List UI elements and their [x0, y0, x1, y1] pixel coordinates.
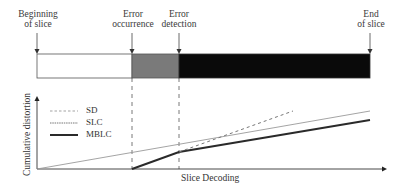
bar-segment-error-propagation: [132, 54, 179, 78]
series-sd: [179, 111, 293, 152]
bar-segment-after-detection: [179, 54, 370, 78]
arrow-down-icon: [35, 49, 40, 54]
series-mblc: [132, 120, 370, 169]
x-axis-label: Slice Decoding: [181, 173, 239, 183]
y-axis-label: Cumulative distortion: [22, 93, 32, 176]
slice-bar: [37, 54, 370, 78]
arrow-down-icon: [368, 49, 373, 54]
arrow-down-icon: [130, 49, 135, 54]
arrow-up-icon: [35, 96, 40, 101]
legend-label-mblc: MBLC: [86, 129, 112, 139]
arrow-right-icon: [382, 167, 387, 172]
diagram-canvas: [0, 0, 405, 191]
bar-segment-correct: [37, 54, 132, 78]
pointer-arrows: [35, 33, 373, 54]
arrow-down-icon: [177, 49, 182, 54]
legend-label-sd: SD: [86, 105, 98, 115]
legend-label-slc: SLC: [86, 117, 103, 127]
legend-swatches: [50, 111, 78, 135]
